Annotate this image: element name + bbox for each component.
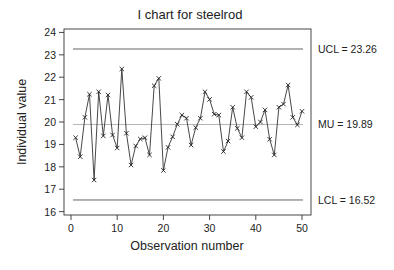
ucl-label: UCL = 23.26	[318, 43, 377, 55]
x-tick-label: 40	[250, 222, 262, 234]
i-chart: I chart for steelrod UCL = 23.26MU = 19.…	[0, 0, 394, 270]
y-tick-label: 22	[44, 71, 56, 83]
y-axis-label: Individual value	[15, 79, 29, 165]
x-tick-label: 30	[204, 222, 216, 234]
chart-title: I chart for steelrod	[138, 7, 243, 22]
x-axis-label: Observation number	[130, 239, 243, 253]
y-tick-label: 18	[44, 161, 56, 173]
y-tick-label: 23	[44, 49, 56, 61]
x-tick-label: 20	[158, 222, 170, 234]
y-tick-label: 20	[44, 116, 56, 128]
y-tick-label: 24	[44, 26, 56, 38]
lcl-label: LCL = 16.52	[318, 194, 375, 206]
y-tick-label: 19	[44, 138, 56, 150]
data-point	[258, 120, 262, 124]
data-point	[170, 135, 174, 139]
y-tick-label: 16	[44, 206, 56, 218]
y-tick-label: 21	[44, 94, 56, 106]
x-tick-label: 10	[111, 222, 123, 234]
data-point	[207, 97, 211, 101]
data-point	[138, 137, 142, 141]
x-tick-label: 50	[296, 222, 308, 234]
data-point	[180, 113, 184, 117]
y-tick-label: 17	[44, 183, 56, 195]
mu-label: MU = 19.89	[318, 118, 373, 130]
x-tick-label: 0	[68, 222, 74, 234]
data-point	[300, 109, 304, 113]
